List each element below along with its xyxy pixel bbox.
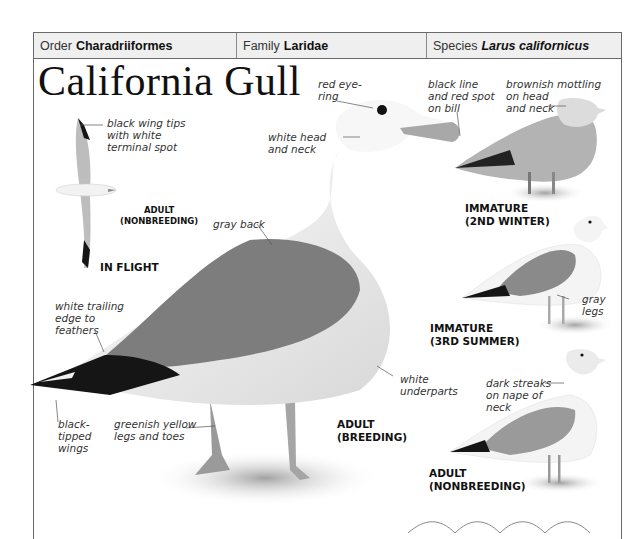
immature-3rd-summer-image	[462, 216, 615, 335]
annotation-bill: black line and red spot on bill	[428, 78, 495, 114]
annotation-mottling: brownish mottling on head and neck	[506, 78, 601, 114]
annotation-head-neck: white head and neck	[268, 131, 326, 155]
annotation-underparts: white underparts	[400, 373, 458, 397]
annotation-red-eye-ring: red eye- ring	[318, 78, 362, 102]
annotation-trailing-edge: white trailing edge to feathers	[55, 300, 124, 336]
label-adult-breeding: ADULT (BREEDING)	[337, 418, 407, 444]
annotation-gray-back: gray back	[213, 218, 265, 230]
annotation-legs-toes: greenish yellow legs and toes	[114, 418, 196, 442]
annotation-wing-tips: black wing tips with white terminal spot	[107, 117, 186, 153]
wave-decoration	[408, 522, 590, 533]
label-in-flight: IN FLIGHT	[100, 261, 159, 274]
annotation-black-tipped: black- tipped wings	[58, 418, 92, 454]
annotation-gray-legs: gray legs	[582, 293, 606, 317]
label-flight-adult-nonbreeding: ADULT (NONBREEDING)	[120, 205, 198, 227]
label-adult-nonbreeding: ADULT (NONBREEDING)	[429, 467, 526, 493]
label-immature-2nd-winter: IMMATURE (2ND WINTER)	[465, 202, 550, 228]
label-immature-3rd-summer: IMMATURE (3RD SUMMER)	[430, 322, 520, 348]
annotation-dark-streaks: dark streaks on nape of neck	[486, 377, 551, 413]
